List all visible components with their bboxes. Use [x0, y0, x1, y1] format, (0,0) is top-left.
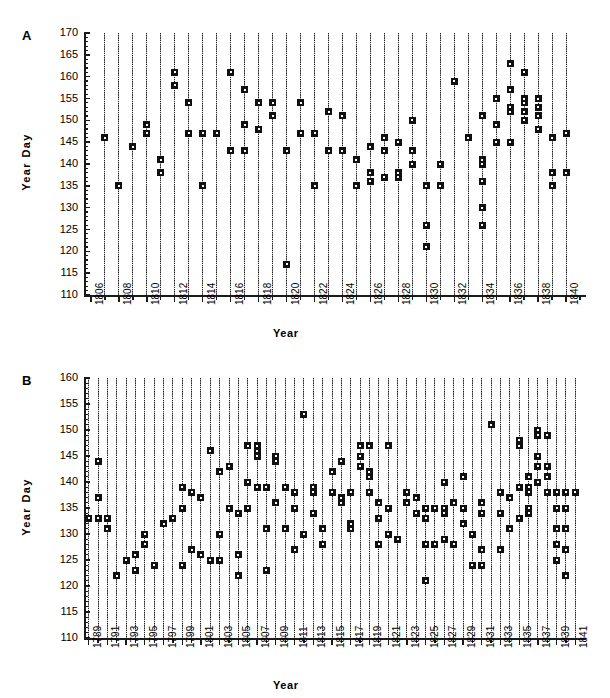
year-stem-line	[266, 378, 267, 638]
data-point-marker	[423, 243, 430, 250]
x-axis-major-tick	[537, 296, 538, 302]
year-stem-line	[272, 33, 273, 295]
data-point-marker	[507, 60, 514, 67]
panel-b-plot-area: 1101151201251301351401451501551601789179…	[84, 378, 580, 638]
data-point-marker	[244, 505, 251, 512]
data-point-marker	[151, 562, 158, 569]
year-stem-line	[200, 378, 201, 638]
y-axis-minor-tick	[84, 80, 88, 81]
y-axis-tick-label: 155	[48, 93, 78, 104]
x-axis-major-tick	[537, 639, 538, 645]
y-axis-minor-tick	[84, 198, 88, 199]
x-axis-major-tick	[144, 639, 145, 645]
x-axis-major-tick	[88, 639, 89, 645]
data-point-marker	[544, 489, 551, 496]
data-point-marker	[216, 531, 223, 538]
x-axis-major-tick	[482, 296, 483, 302]
x-axis-major-tick	[425, 639, 426, 645]
data-point-marker	[553, 557, 560, 564]
y-axis-tick-label: 160	[48, 71, 78, 82]
data-point-marker	[227, 147, 234, 154]
year-stem-line	[481, 378, 482, 638]
panel-a-plot-area: 1101151201251301351401451501551601651701…	[84, 33, 580, 295]
data-point-marker	[357, 453, 364, 460]
year-stem-line	[342, 33, 343, 295]
x-axis-major-tick	[230, 296, 231, 302]
data-point-marker	[460, 473, 467, 480]
panel-b: B Year Day Year 110115120125130135140145…	[0, 349, 610, 698]
data-point-marker	[199, 182, 206, 189]
data-point-marker	[385, 442, 392, 449]
y-axis-tick-label: 140	[48, 476, 78, 487]
x-axis-major-tick	[509, 296, 510, 302]
y-axis-minor-tick	[84, 617, 88, 618]
y-axis-tick-label: 145	[48, 136, 78, 147]
data-point-marker	[562, 489, 569, 496]
data-point-marker	[535, 112, 542, 119]
year-stem-line	[566, 33, 567, 295]
y-axis-minor-tick	[84, 124, 88, 125]
y-axis-minor-tick	[84, 554, 88, 555]
data-point-marker	[367, 178, 374, 185]
y-axis-minor-tick	[84, 203, 88, 204]
y-axis-minor-tick	[84, 440, 88, 441]
year-stem-line	[219, 378, 220, 638]
y-axis-minor-tick	[84, 539, 88, 540]
y-axis-minor-tick	[84, 238, 88, 239]
data-point-marker	[493, 121, 500, 128]
y-axis-minor-tick	[84, 41, 88, 42]
y-axis-tick-label: 125	[48, 224, 78, 235]
data-point-marker	[283, 147, 290, 154]
data-point-marker	[115, 182, 122, 189]
data-point-marker	[269, 112, 276, 119]
data-point-marker	[423, 222, 430, 229]
year-stem-line	[188, 33, 189, 295]
data-point-marker	[263, 525, 270, 532]
y-axis-major-tick	[84, 294, 90, 295]
year-stem-line	[107, 378, 108, 638]
data-point-marker	[450, 499, 457, 506]
x-axis-tick-label: 1841	[579, 626, 589, 648]
y-axis-minor-tick	[84, 632, 88, 633]
year-stem-line	[118, 33, 119, 295]
data-point-marker	[95, 494, 102, 501]
x-axis-tick-label: 1840	[570, 283, 580, 305]
data-point-marker	[534, 463, 541, 470]
data-point-marker	[437, 182, 444, 189]
y-axis-minor-tick	[84, 528, 88, 529]
x-axis-major-tick	[500, 639, 501, 645]
year-stem-line	[146, 33, 147, 295]
year-stem-line	[398, 33, 399, 295]
y-axis-minor-tick	[84, 497, 88, 498]
year-stem-line	[537, 378, 538, 638]
data-point-marker	[188, 489, 195, 496]
x-axis-major-tick	[238, 639, 239, 645]
y-axis-major-tick	[84, 229, 90, 230]
data-point-marker	[207, 557, 214, 564]
x-axis-major-tick	[462, 639, 463, 645]
year-stem-line	[322, 378, 323, 638]
figure: A Year Day Year 110115120125130135140145…	[0, 0, 610, 698]
x-axis-major-tick	[454, 296, 455, 302]
data-point-marker	[338, 458, 345, 465]
year-stem-line	[314, 33, 315, 295]
data-point-marker	[123, 557, 130, 564]
x-axis-major-tick	[200, 639, 201, 645]
data-point-marker	[226, 505, 233, 512]
year-stem-line	[509, 378, 510, 638]
data-point-marker	[521, 108, 528, 115]
year-stem-line	[426, 33, 427, 295]
y-axis-tick-label: 130	[48, 528, 78, 539]
data-point-marker	[375, 541, 382, 548]
y-axis-minor-tick	[84, 63, 88, 64]
y-axis-major-tick	[84, 207, 90, 208]
x-axis-major-tick	[331, 639, 332, 645]
panel-b-letter: B	[22, 373, 32, 388]
y-axis-minor-tick	[84, 383, 88, 384]
data-point-marker	[534, 453, 541, 460]
y-axis-minor-tick	[84, 398, 88, 399]
y-axis-minor-tick	[84, 220, 88, 221]
data-point-marker	[366, 489, 373, 496]
x-axis-major-tick	[294, 639, 295, 645]
data-point-marker	[188, 546, 195, 553]
